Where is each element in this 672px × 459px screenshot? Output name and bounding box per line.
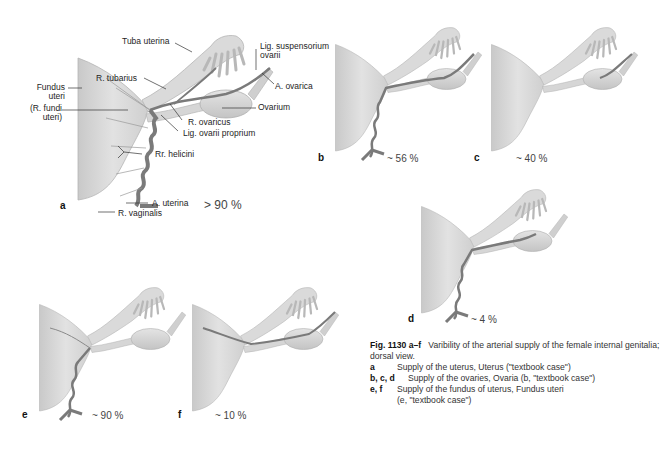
uterus-illustration-d (420, 184, 570, 319)
label-r-vaginalis: R. vaginalis (118, 209, 162, 218)
panel-letter-b: b (318, 152, 324, 163)
percentage-a: > 90 % (204, 198, 242, 212)
caption-title: Fig. 1130 a–f Varibility of the arterial… (370, 340, 670, 351)
uterus-illustration-c (490, 22, 640, 157)
caption-item-text: (e, "textbook case") (397, 395, 670, 406)
caption-item: (e, "textbook case") (370, 395, 670, 406)
label-a-ovarica: A. ovarica (275, 82, 313, 91)
caption-item: e, f Supply of the fundus of uterus, Fun… (370, 384, 670, 395)
percentage-f: ~ 10 % (215, 410, 246, 421)
caption-item-key (370, 395, 397, 406)
caption-item: a Supply of the uterus, Uterus ("textboo… (370, 362, 670, 373)
uterus-illustration-f (191, 282, 341, 417)
percentage-c: ~ 40 % (516, 153, 547, 164)
panel-letter-c: c (474, 152, 480, 163)
label-rr-helicini: Rr. helicini (155, 150, 194, 159)
percentage-d: ~ 4 % (471, 314, 497, 325)
caption-item-text: Supply of the ovaries, Ovaria (b, "textb… (397, 373, 670, 384)
figure-caption: Fig. 1130 a–f Varibility of the arterial… (370, 340, 670, 406)
label-r-tubarius: R. tubarius (96, 74, 137, 83)
caption-item-text: Supply of the fundus of uterus, Fundus u… (397, 384, 670, 395)
label-a-uterina: A. uterina (152, 199, 188, 208)
label-tuba-uterina: Tuba uterina (122, 37, 169, 46)
caption-item-key: e, f (370, 384, 397, 395)
label-ovarium: Ovarium (258, 103, 290, 112)
label-r-fundi-2: uteri) (22, 113, 62, 122)
label-lig-suspensorium-2: ovarii (260, 51, 280, 60)
panel-letter-d: d (408, 313, 414, 324)
caption-fig-number: Fig. 1130 a–f (370, 340, 421, 350)
caption-item-key: a (370, 362, 397, 373)
uterus-illustration-b (334, 22, 484, 157)
caption-title-text: Varibility of the arterial supply of the… (428, 340, 659, 350)
uterus-illustration-e (38, 282, 188, 417)
percentage-e: ~ 90 % (92, 410, 123, 421)
caption-subtitle: dorsal view. (370, 351, 670, 362)
label-fundus-2: uteri (33, 92, 65, 101)
percentage-b: ~ 56 % (387, 153, 418, 164)
panel-letter-e: e (22, 409, 28, 420)
label-r-ovaricus: R. ovaricus (188, 118, 231, 127)
label-lig-ovarii-proprium: Lig. ovarii proprium (183, 129, 255, 138)
caption-item: b, c, d Supply of the ovaries, Ovaria (b… (370, 373, 670, 384)
caption-item-text: Supply of the uterus, Uterus ("textbook … (397, 362, 670, 373)
panel-letter-a: a (60, 200, 66, 211)
panel-letter-f: f (178, 409, 181, 420)
